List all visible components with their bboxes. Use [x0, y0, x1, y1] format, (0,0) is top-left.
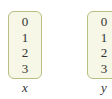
array-x-cell-2: 2 — [22, 45, 29, 60]
array-y-cell-3: 3 — [101, 61, 108, 76]
array-y-box: 0 1 2 3 — [87, 11, 112, 79]
array-y-cell-1: 1 — [101, 30, 108, 45]
array-x-cell-3: 3 — [22, 61, 29, 76]
array-x-cell-1: 1 — [22, 30, 29, 45]
array-y-cell-0: 0 — [101, 14, 108, 29]
array-y-cell-2: 2 — [101, 45, 108, 60]
array-y-label: y — [87, 80, 112, 96]
array-x-box: 0 1 2 3 — [8, 11, 42, 79]
array-x-cell-0: 0 — [22, 14, 29, 29]
array-x-label: x — [8, 80, 42, 96]
